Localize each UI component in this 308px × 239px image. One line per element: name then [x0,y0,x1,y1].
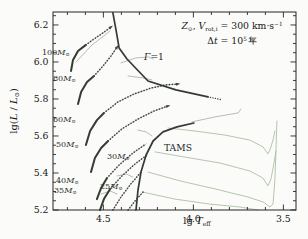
text-part: = 300 km·s [218,20,275,31]
gamma-limit-dotted [208,97,222,100]
text-part: L [8,114,19,121]
hr-diagram-figure: 4.54.03.56.26.05.85.65.45.2 100M⊙80M⊙60M… [0,0,308,239]
track-60-ms-markers [104,84,178,113]
spur-80b [128,76,152,80]
text-part: lg( [8,120,19,134]
y-tick-label: 5.8 [34,93,49,104]
track-60-ms-arrowhead [176,83,181,86]
y-tick-label: 6.2 [34,19,49,30]
spur-40 [138,130,152,136]
y-tick-label: 6.0 [34,56,49,67]
rsg-branch-2 [155,151,276,186]
text-part: 5 [243,36,247,42]
track-80-ms-markers [94,47,117,76]
track-35-zams [100,189,110,210]
x-tick-label: 4.5 [96,213,111,224]
model-annotation: Z⊙, Vrot,i = 300 km·s−1 Δt = 105 [163,19,301,48]
x-tick-label: 3.5 [276,213,291,224]
text-part: / [8,104,19,114]
text-part: eff [203,220,211,227]
track-80-zams [78,76,94,104]
text-part: L [8,97,19,104]
text-part: rot,i [205,26,217,32]
y-axis-title: lg(L / L⊙) [8,88,20,134]
track-60-post [192,109,241,122]
annotation-line1: Z⊙, Vrot,i = 300 km·s−1 [163,19,301,34]
spur-100 [76,31,110,62]
text-part: Δ [207,35,214,46]
x-axis-title: lg Teff [183,215,211,227]
text-part: ⊙ [13,92,20,97]
cjk-year-glyph [248,36,257,45]
spur-30 [117,174,133,177]
y-tick-label: 5.4 [34,167,49,178]
track-100-zams [71,45,86,71]
track-50-zams [91,141,108,172]
text-part: ) [8,88,19,92]
text-part: lg [183,215,196,226]
y-tick-label: 5.2 [34,204,49,215]
rsg-branch-1 [168,128,275,154]
track-60-zams [86,113,104,145]
track-50-ms-arrowhead [166,105,171,108]
rsg-branch-3 [148,121,277,207]
text-part: = 10 [218,35,244,46]
text-part: −1 [274,21,282,27]
y-tick-label: 5.6 [34,130,49,141]
track-60-ms [104,84,178,113]
annotation-line2: Δt = 105 [163,34,301,48]
